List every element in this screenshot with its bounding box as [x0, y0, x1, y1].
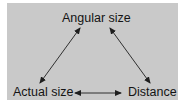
node-distance: Distance	[128, 86, 177, 99]
node-actual-size: Actual size	[13, 86, 73, 99]
arrow-angular-distance	[110, 28, 150, 83]
node-angular-size: Angular size	[62, 12, 131, 25]
arrow-angular-actual	[40, 28, 80, 83]
